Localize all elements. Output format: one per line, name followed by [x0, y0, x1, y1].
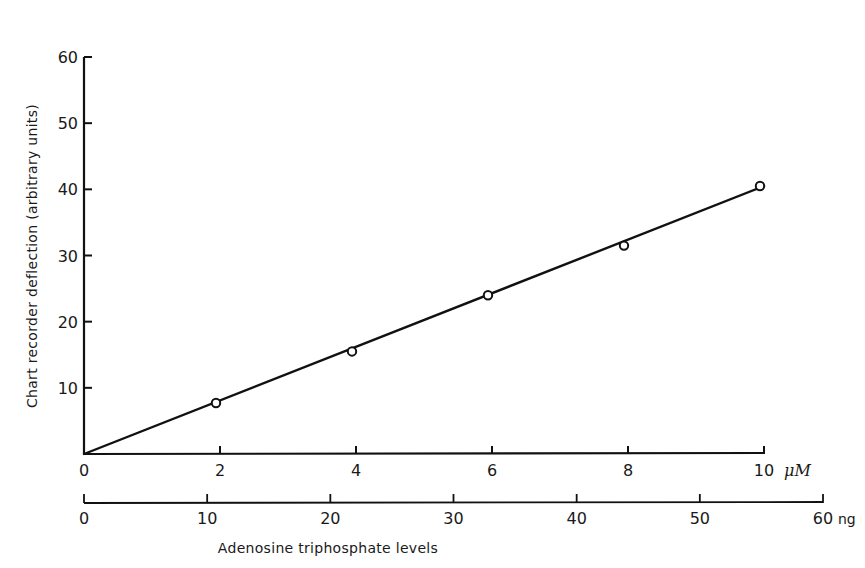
- calibration-chart: 102030405060 Chart recorder deflection (…: [0, 0, 865, 568]
- x-primary-unit: μM: [784, 461, 811, 480]
- origin-label: 0: [79, 461, 89, 480]
- y-tick-label: 10: [58, 379, 78, 398]
- data-point-marker: [484, 291, 492, 299]
- x-secondary-tick-label: 50: [690, 509, 710, 528]
- regression-line: [84, 186, 764, 454]
- y-tick-label: 50: [58, 114, 78, 133]
- x-primary-tick-label: 2: [215, 461, 225, 480]
- y-tick-label: 60: [58, 48, 78, 67]
- x-axis-primary: 246810 0 μM: [79, 446, 811, 480]
- x-secondary-tick-label: 40: [566, 509, 586, 528]
- x-primary-tick-label: 10: [754, 461, 774, 480]
- data-points: [212, 182, 764, 407]
- y-tick-label: 40: [58, 180, 78, 199]
- y-axis-ticks: 102030405060: [58, 48, 92, 398]
- x-axis-secondary: 0102030405060 ng Adenosine triphosphate …: [79, 494, 856, 556]
- x-secondary-tick-label: 0: [79, 509, 89, 528]
- y-axis-title: Chart recorder deflection (arbitrary uni…: [24, 104, 40, 408]
- x-secondary-tick-label: 30: [443, 509, 463, 528]
- data-point-marker: [348, 347, 356, 355]
- x-secondary-tick-label: 60: [813, 509, 833, 528]
- x-secondary-tick-label: 20: [320, 509, 340, 528]
- y-axis: 102030405060 Chart recorder deflection (…: [24, 48, 92, 454]
- x-axis-primary-ticks: 246810: [215, 446, 774, 480]
- x-axis-secondary-ticks: 0102030405060: [79, 494, 833, 528]
- x-primary-tick-label: 4: [351, 461, 361, 480]
- x-primary-tick-label: 6: [487, 461, 497, 480]
- data-point-marker: [212, 399, 220, 407]
- x-secondary-tick-label: 10: [197, 509, 217, 528]
- y-tick-label: 30: [58, 247, 78, 266]
- x-axis-title: Adenosine triphosphate levels: [218, 540, 438, 556]
- data-point-marker: [756, 182, 764, 190]
- x-primary-tick-label: 8: [623, 461, 633, 480]
- data-point-marker: [620, 241, 628, 249]
- plot-area: [84, 182, 764, 454]
- x-secondary-unit: ng: [838, 511, 856, 527]
- y-tick-label: 20: [58, 313, 78, 332]
